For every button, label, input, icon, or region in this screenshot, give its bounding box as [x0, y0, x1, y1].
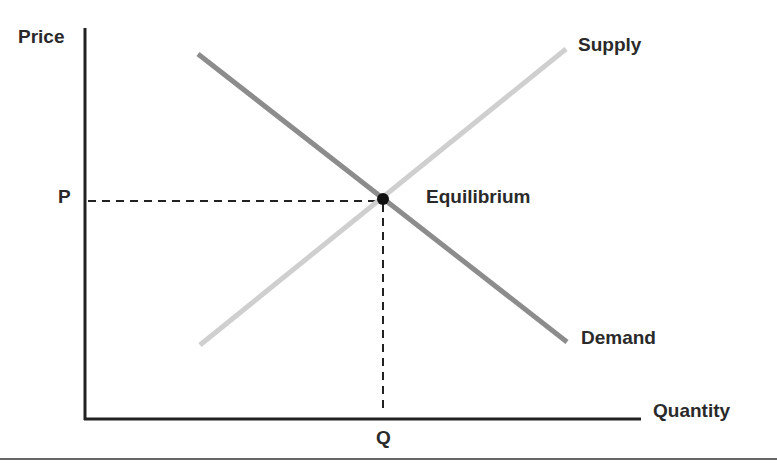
price-axis-label: Price [18, 26, 64, 48]
equilibrium-label: Equilibrium [426, 186, 531, 208]
p-label: P [58, 186, 71, 208]
quantity-axis-label: Quantity [653, 400, 730, 422]
demand-label: Demand [581, 327, 656, 349]
equilibrium-point [377, 193, 389, 205]
supply-label: Supply [578, 34, 641, 56]
q-label: Q [376, 427, 391, 449]
